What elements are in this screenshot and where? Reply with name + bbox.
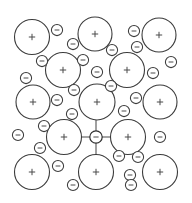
negative-ion[interactable] bbox=[68, 84, 79, 95]
center-negative-ion[interactable] bbox=[90, 131, 102, 143]
positive-ion[interactable] bbox=[79, 155, 114, 190]
negative-ion[interactable] bbox=[106, 44, 117, 55]
positive-ion[interactable] bbox=[111, 120, 146, 155]
negative-ion[interactable] bbox=[52, 160, 63, 171]
positive-ion[interactable] bbox=[142, 18, 176, 52]
negative-ion[interactable] bbox=[125, 179, 136, 190]
positive-ion[interactable] bbox=[78, 17, 112, 51]
negative-ion[interactable] bbox=[131, 41, 142, 52]
negative-ion[interactable] bbox=[118, 105, 129, 116]
negative-ion[interactable] bbox=[128, 25, 139, 36]
negative-ion[interactable] bbox=[154, 131, 165, 142]
negative-ion[interactable] bbox=[165, 56, 176, 67]
positive-ion[interactable] bbox=[47, 120, 82, 155]
negative-ion[interactable] bbox=[67, 179, 78, 190]
negative-ion[interactable] bbox=[147, 67, 158, 78]
positive-ion[interactable] bbox=[143, 85, 177, 119]
negative-ion[interactable] bbox=[130, 92, 141, 103]
negative-ion[interactable] bbox=[38, 120, 49, 131]
negative-ion[interactable] bbox=[113, 150, 124, 161]
positive-ion[interactable] bbox=[16, 85, 50, 119]
positive-ion[interactable] bbox=[15, 155, 50, 190]
positive-ion[interactable] bbox=[15, 20, 50, 55]
negative-ion[interactable] bbox=[67, 38, 78, 49]
negative-ion[interactable] bbox=[36, 55, 47, 66]
positive-ions-group bbox=[15, 17, 178, 190]
lattice-canvas bbox=[0, 0, 192, 203]
negative-ion[interactable] bbox=[12, 129, 23, 140]
negative-ion[interactable] bbox=[66, 108, 77, 119]
negative-ion[interactable] bbox=[132, 151, 143, 162]
ionic-lattice-diagram bbox=[0, 0, 192, 203]
positive-ion[interactable] bbox=[143, 155, 178, 190]
negative-ion[interactable] bbox=[91, 66, 102, 77]
negative-ion[interactable] bbox=[124, 169, 135, 180]
negative-ion[interactable] bbox=[51, 24, 62, 35]
negative-ion[interactable] bbox=[20, 72, 31, 83]
negative-ion[interactable] bbox=[105, 80, 116, 91]
negative-ion[interactable] bbox=[51, 94, 62, 105]
negative-ion[interactable] bbox=[77, 54, 88, 65]
positive-ion[interactable] bbox=[46, 53, 81, 88]
negative-ion[interactable] bbox=[34, 142, 45, 153]
